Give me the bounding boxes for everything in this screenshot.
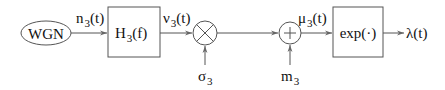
exp-block: exp(·): [333, 7, 383, 57]
exp-label: exp(·): [340, 25, 377, 42]
m3-label: m3: [281, 68, 300, 87]
filter-block: H3(f): [108, 7, 160, 57]
sigma3-label: σ3: [198, 68, 213, 87]
block-diagram: WGN n3(t) H3(f) ν3(t) σ3 m3 μ3(t) exp(·)…: [0, 0, 445, 90]
multiplier-node: [193, 21, 217, 45]
signal-n3-label: n3(t): [76, 10, 104, 29]
wgn-label: WGN: [28, 26, 64, 42]
signal-nu3-label: ν3(t): [163, 10, 190, 29]
wgn-source-node: WGN: [21, 21, 71, 45]
signal-mu3-label: μ3(t): [298, 10, 327, 29]
output-lambda-label: λ(t): [406, 25, 427, 42]
